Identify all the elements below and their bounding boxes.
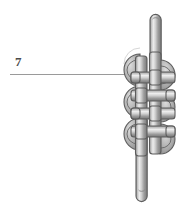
bar-4-right-end	[166, 126, 175, 137]
reference-numeral-7: 7	[15, 55, 22, 68]
knot-vertical-right	[150, 52, 162, 154]
knot-vertical-strands	[136, 52, 162, 156]
weave-left-over-4	[136, 124, 148, 139]
bar-3-left-end	[131, 108, 140, 119]
knot-figure-illustration	[0, 0, 192, 212]
weave-right-over-1	[150, 70, 162, 85]
weave-right-over-3	[150, 106, 162, 121]
bar-1-left-end	[131, 72, 140, 83]
weave-left-over-2	[136, 88, 148, 103]
knot-vertical-left	[136, 56, 148, 156]
bar-2-right-end	[166, 90, 175, 101]
